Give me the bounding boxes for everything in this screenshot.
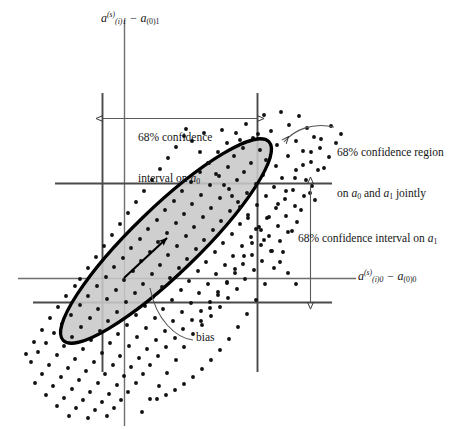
scatter-point — [199, 319, 203, 323]
scatter-point — [214, 272, 218, 276]
scatter-point — [174, 221, 178, 225]
scatter-point — [272, 266, 276, 270]
scatter-point — [194, 247, 198, 251]
scatter-point — [316, 168, 320, 172]
scatter-point — [264, 194, 268, 198]
scatter-point — [144, 326, 148, 330]
scatter-point — [138, 237, 142, 241]
scatter-point — [47, 363, 51, 367]
scatter-point — [155, 397, 159, 401]
scatter-point — [59, 375, 63, 379]
scatter-point — [141, 282, 145, 286]
scatter-point — [227, 337, 231, 341]
scatter-point — [115, 383, 119, 387]
scatter-point — [260, 259, 264, 263]
scatter-point — [150, 272, 154, 276]
scatter-point — [173, 336, 177, 340]
scatter-point — [322, 166, 326, 170]
scatter-point — [309, 160, 313, 164]
scatter-point — [327, 155, 331, 159]
scatter-point — [250, 253, 254, 257]
scatter-point — [254, 298, 258, 302]
scatter-point — [88, 316, 92, 320]
scatter-point — [209, 358, 213, 362]
scatter-point — [214, 172, 218, 176]
scatter-point — [319, 137, 323, 141]
scatter-point — [73, 284, 77, 288]
scatter-point — [29, 360, 33, 364]
scatter-point — [262, 113, 266, 117]
scatter-point — [32, 340, 36, 344]
scatter-point — [241, 262, 245, 266]
scatter-point — [180, 310, 184, 314]
scatter-point — [137, 356, 141, 360]
scatter-point — [243, 277, 247, 281]
scatter-point — [226, 165, 230, 169]
scatter-point — [191, 375, 195, 379]
scatter-point — [301, 163, 305, 167]
scatter-point — [84, 369, 88, 373]
scatter-point — [192, 225, 196, 229]
scatter-point — [118, 222, 122, 226]
scatter-point — [218, 305, 222, 309]
scatter-point — [197, 291, 201, 295]
scatter-point — [56, 305, 60, 309]
scatter-point — [184, 234, 188, 238]
scatter-point — [44, 393, 48, 397]
scatter-point — [250, 241, 254, 245]
scatter-point — [246, 216, 250, 220]
scatter-point — [245, 191, 249, 195]
x-axis-label: a(s)(i)0 − a(0)0 — [358, 266, 416, 286]
scatter-point — [225, 280, 229, 284]
scatter-point — [235, 178, 239, 182]
scatter-point — [232, 154, 236, 158]
region-line2: on a0 and a1 jointly — [337, 187, 444, 204]
scatter-point — [233, 267, 237, 271]
scatter-point — [148, 397, 152, 401]
scatter-point — [230, 232, 234, 236]
bias-label: bias — [196, 331, 215, 345]
scatter-point — [135, 335, 139, 339]
scatter-point — [164, 393, 168, 397]
scatter-point — [274, 164, 278, 168]
scatter-point — [242, 170, 246, 174]
scatter-point — [96, 381, 100, 385]
scatter-point — [233, 271, 237, 275]
scatter-point — [182, 382, 186, 386]
scatter-point — [129, 365, 133, 369]
scatter-point — [126, 390, 130, 394]
scatter-point — [166, 253, 170, 257]
scatter-point — [276, 202, 280, 206]
scatter-point — [286, 271, 290, 275]
scatter-point — [254, 227, 258, 231]
scatter-point — [226, 296, 230, 300]
scatter-point — [161, 307, 165, 311]
region-annotation: 68% confidence region on a0 and a1 joint… — [337, 119, 444, 230]
scatter-point — [209, 314, 213, 318]
scatter-point — [238, 222, 242, 226]
scatter-point — [227, 187, 231, 191]
scatter-point — [55, 404, 59, 408]
scatter-point — [114, 288, 118, 292]
scatter-point — [287, 123, 291, 127]
scatter-point — [126, 211, 130, 215]
scatter-point — [263, 282, 267, 286]
scatter-point — [244, 122, 248, 126]
scatter-point — [154, 338, 158, 342]
scatter-point — [70, 335, 74, 339]
scatter-point — [105, 414, 109, 418]
scatter-point — [211, 228, 215, 232]
scatter-point — [200, 323, 204, 327]
scatter-point — [129, 246, 133, 250]
scatter-point — [276, 224, 280, 228]
scatter-point — [102, 244, 106, 248]
scatter-point — [107, 392, 111, 396]
scatter-point — [274, 206, 278, 210]
scatter-point — [88, 390, 92, 394]
scatter-point — [196, 269, 200, 273]
scatter-point — [163, 329, 167, 333]
scatter-point — [134, 313, 138, 317]
scatter-point — [291, 188, 295, 192]
scatter-point — [216, 150, 220, 154]
scatter-point — [153, 316, 157, 320]
